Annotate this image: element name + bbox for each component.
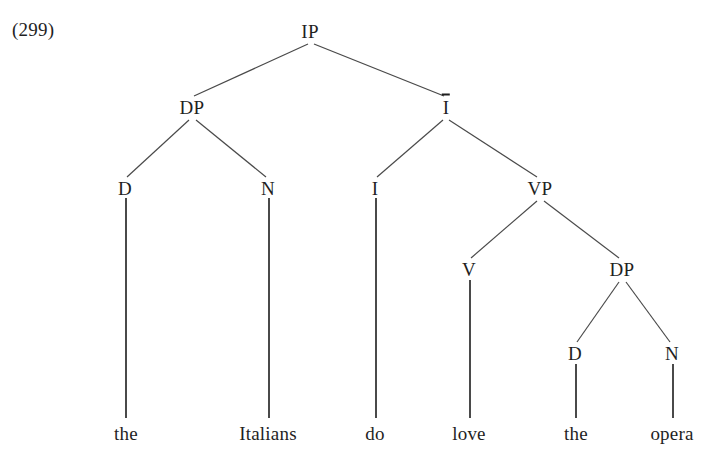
tree-node-d1: D	[118, 179, 132, 198]
tree-node-dp1: DP	[180, 98, 205, 117]
tree-node-v0: V	[462, 260, 476, 279]
tree-node-i0: I	[372, 179, 379, 198]
terminal-word-italians: Italians	[239, 424, 297, 443]
terminal-word-love: love	[452, 424, 486, 443]
tree-branch	[377, 120, 443, 177]
tree-node-dp2: DP	[610, 260, 635, 279]
tree-branch	[626, 282, 670, 342]
tree-branch	[544, 201, 619, 258]
terminal-word-the: the	[564, 424, 588, 443]
tree-node-ip: IP	[301, 22, 319, 41]
tree-branch	[471, 201, 537, 258]
terminal-word-do: do	[365, 424, 384, 443]
terminal-word-the: the	[114, 424, 138, 443]
syntax-tree-figure: (299) IPDPIDNIVPVDPDN theItaliansdolovet…	[0, 0, 719, 465]
tree-branch	[314, 44, 444, 96]
tree-branch	[127, 120, 189, 177]
bar-level-overline: I	[443, 98, 449, 117]
tree-node-d2: D	[568, 344, 582, 363]
tree-branch	[194, 44, 308, 96]
terminal-word-opera: opera	[650, 424, 693, 443]
branch-lines	[127, 44, 670, 342]
tree-branch	[577, 282, 619, 342]
tree-branch	[449, 120, 537, 177]
terminal-stem-lines	[126, 198, 673, 418]
tree-node-n1: N	[261, 179, 275, 198]
tree-branch	[196, 120, 266, 177]
tree-branch-canvas	[0, 0, 719, 465]
tree-node-n2: N	[665, 344, 679, 363]
tree-node-ibar: I	[443, 98, 449, 117]
tree-node-vp: VP	[528, 179, 553, 198]
